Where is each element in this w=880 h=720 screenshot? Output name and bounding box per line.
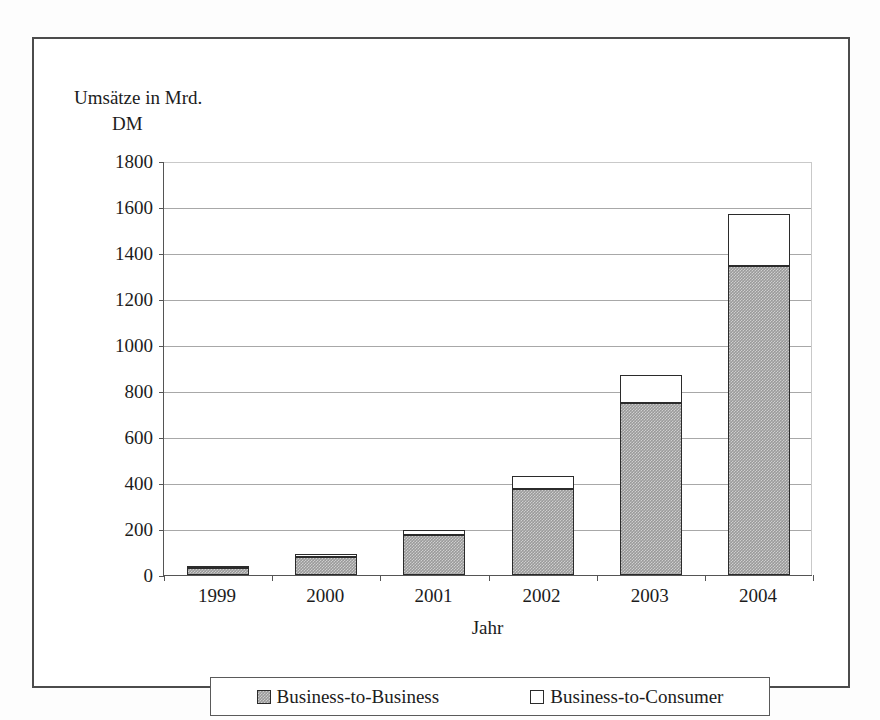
bar-segment-b2b[interactable] <box>728 266 790 575</box>
x-axis-tick-label: 1999 <box>162 584 272 608</box>
y-axis-tick-label: 1000 <box>83 336 153 355</box>
chart-outer-frame: Umsätze in Mrd.DM 0200400600800100012001… <box>32 37 850 688</box>
legend-item-business-to-business[interactable]: Business-to-Business <box>257 686 440 708</box>
x-axis-tick-label: 2004 <box>703 584 813 608</box>
chart-legend: Business-to-Business Business-to-Consume… <box>210 677 770 716</box>
x-axis-tick-mark <box>813 575 814 581</box>
x-axis-tick-mark <box>380 575 381 581</box>
y-axis-tick-label: 600 <box>83 428 153 447</box>
chart-page: Umsätze in Mrd.DM 0200400600800100012001… <box>0 0 880 720</box>
x-axis-tick-label: 2001 <box>378 584 488 608</box>
bar-segment-b2c[interactable] <box>295 554 357 556</box>
x-axis-tick-label: 2000 <box>270 584 380 608</box>
y-axis-tick-label: 1400 <box>83 244 153 263</box>
bar-segment-b2c[interactable] <box>187 566 249 568</box>
y-axis-title-line-2: DM <box>74 111 334 137</box>
y-axis-tick-label: 1800 <box>83 152 153 171</box>
legend-item-business-to-consumer[interactable]: Business-to-Consumer <box>530 686 723 708</box>
y-axis-tick-label: 400 <box>83 474 153 493</box>
bar-segment-b2c[interactable] <box>620 375 682 403</box>
y-axis-tick-label: 0 <box>83 566 153 585</box>
plot-area <box>163 162 812 576</box>
x-axis-title: Jahr <box>163 617 812 639</box>
bar-segment-b2c[interactable] <box>512 476 574 489</box>
bar-segment-b2b[interactable] <box>620 403 682 576</box>
x-axis-tick-labels: 199920002001200220032004 <box>163 584 812 614</box>
x-axis-tick-mark <box>489 575 490 581</box>
y-axis-tick-label: 1200 <box>83 290 153 309</box>
legend-swatch-icon-b2b <box>257 690 271 704</box>
x-axis-tick-label: 2003 <box>595 584 705 608</box>
bar-segment-b2c[interactable] <box>403 530 465 535</box>
y-axis-tick-label: 1600 <box>83 198 153 217</box>
x-axis-tick-label: 2002 <box>487 584 597 608</box>
bar-segment-b2b[interactable] <box>403 535 465 575</box>
bar-segment-b2b[interactable] <box>512 489 574 575</box>
y-axis-tick-label: 200 <box>83 520 153 539</box>
y-axis-title-line-1: Umsätze in Mrd. <box>74 87 202 108</box>
bar-segment-b2b[interactable] <box>295 557 357 575</box>
y-axis-tick-labels: 020040060080010001200140016001800 <box>83 162 153 576</box>
y-axis-title: Umsätze in Mrd.DM <box>74 85 334 137</box>
bar-segment-b2b[interactable] <box>187 568 249 575</box>
x-axis-tick-mark <box>705 575 706 581</box>
legend-label-b2b: Business-to-Business <box>277 686 440 708</box>
legend-swatch-icon-b2c <box>530 690 544 704</box>
x-axis-tick-mark <box>597 575 598 581</box>
x-axis-tick-mark <box>272 575 273 581</box>
bars-layer <box>164 162 812 575</box>
y-axis-tick-label: 800 <box>83 382 153 401</box>
x-axis-tick-mark <box>164 575 165 581</box>
legend-label-b2c: Business-to-Consumer <box>550 686 723 708</box>
bar-segment-b2c[interactable] <box>728 214 790 266</box>
